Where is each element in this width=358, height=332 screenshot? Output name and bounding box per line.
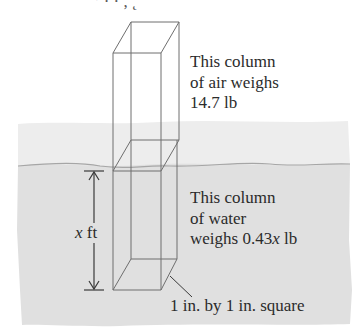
air-region <box>18 121 350 166</box>
depth-label: x ft <box>74 223 98 243</box>
water-label-line-3: weighs 0.43x lb <box>190 229 297 250</box>
depth-unit: ft <box>83 223 98 242</box>
air-label-line-3: 14.7 lb <box>190 93 279 114</box>
water-column-label: This column of water weighs 0.43x lb <box>190 188 297 250</box>
depth-variable: x <box>75 223 83 242</box>
air-column-label: This column of air weighs 14.7 lb <box>190 52 279 114</box>
water-weight-variable: x <box>272 229 280 248</box>
water-weight-prefix: weighs 0.43 <box>190 229 272 248</box>
atmospheric-pressure-diagram: ’ · · , ˛ This column of air weighs 14.7… <box>0 0 358 332</box>
cropped-heading-fragment: ’ · · , ˛ <box>95 0 138 12</box>
water-label-line-1: This column <box>190 188 297 209</box>
air-label-line-2: of air weighs <box>190 73 279 94</box>
water-label-line-2: of water <box>190 209 297 230</box>
square-size-label: 1 in. by 1 in. square <box>170 296 305 317</box>
air-label-line-1: This column <box>190 52 279 73</box>
water-weight-suffix: lb <box>280 229 297 248</box>
